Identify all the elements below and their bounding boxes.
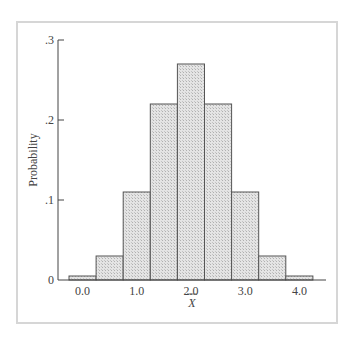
x-axis-title: X — [187, 296, 196, 310]
bar-1.5 — [150, 104, 177, 280]
x-tick-label: 1.0 — [129, 284, 144, 298]
bar-2.0 — [177, 64, 204, 280]
y-tick-label: .3 — [45, 33, 54, 47]
x-tick-label: 0.0 — [75, 284, 90, 298]
bars-group — [69, 64, 313, 280]
bar-2.5 — [205, 104, 232, 280]
bar-0.0 — [69, 276, 96, 280]
bar-3.0 — [232, 192, 259, 280]
y-tick-label: .1 — [45, 193, 54, 207]
bar-3.5 — [259, 256, 286, 280]
histogram-chart: 0.1.2.3 0.01.02.03.04.0 Probability X — [0, 0, 356, 339]
y-tick-label: .2 — [45, 113, 54, 127]
bar-0.5 — [96, 256, 123, 280]
y-axis-title: Probability — [26, 133, 40, 186]
y-ticks: 0.1.2.3 — [45, 33, 64, 287]
bar-4.0 — [286, 276, 313, 280]
x-tick-label: 4.0 — [292, 284, 307, 298]
bar-1.0 — [123, 192, 150, 280]
y-tick-label: 0 — [48, 273, 54, 287]
x-tick-label: 3.0 — [238, 284, 253, 298]
